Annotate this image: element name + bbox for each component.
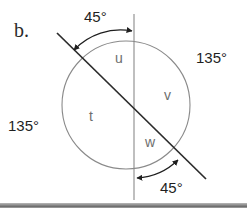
angle-label-right: 135° [196,50,227,65]
angle-label-left: 135° [8,118,39,133]
angle-label-top: 45° [84,9,107,24]
region-label-w: w [145,135,155,149]
diagonal-line [57,33,206,179]
region-label-u: u [115,51,123,65]
angle-label-bottom: 45° [160,180,183,195]
region-label-v: v [164,88,171,102]
item-label: b. [14,20,29,40]
angle-arc-bottom [137,160,178,178]
circle-outline [62,41,190,169]
bottom-divider-rule [0,203,247,208]
geometry-figure-canvas [0,0,247,216]
region-label-t: t [89,109,93,123]
geometry-figure-panel: b. 45° 135° 135° 45° u v t w [0,0,247,216]
angle-arc-top [74,30,132,50]
